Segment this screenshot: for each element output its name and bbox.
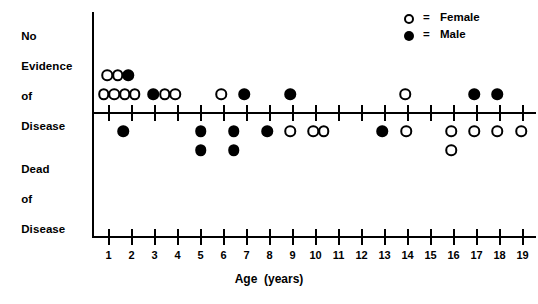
x-axis-tick: [407, 105, 409, 121]
data-point-female: [284, 125, 296, 137]
x-axis-tick-label: 16: [447, 249, 459, 261]
data-point-female: [445, 125, 457, 137]
x-axis-tick: [269, 105, 271, 121]
legend-label-female: Female: [440, 11, 480, 23]
x-axis-tick: [430, 229, 432, 245]
x-axis-tick: [407, 229, 409, 245]
filled-circle-icon: [404, 31, 414, 41]
category-label-dead: Dead of Disease: [8, 147, 65, 252]
data-point-female: [215, 88, 227, 100]
data-point-male: [118, 125, 130, 137]
x-axis-title: Age (years): [235, 272, 304, 286]
x-axis-tick-label: 7: [243, 249, 249, 261]
data-point-male: [228, 144, 240, 156]
x-axis-tick: [453, 105, 455, 121]
category-label-line: Disease: [21, 120, 65, 132]
category-label-line: of: [21, 193, 32, 205]
x-axis-tick: [384, 229, 386, 245]
x-axis-tick-label: 8: [266, 249, 272, 261]
data-point-female: [169, 88, 181, 100]
x-axis-tick: [476, 105, 478, 121]
x-axis-tick: [430, 105, 432, 121]
x-axis-tick-label: 12: [355, 249, 367, 261]
x-axis-tick: [315, 105, 317, 121]
y-axis-line: [92, 12, 94, 237]
x-axis-tick-label: 11: [333, 249, 345, 261]
category-label-line: Disease: [21, 223, 65, 235]
data-point-female: [491, 125, 503, 137]
x-axis-tick: [361, 105, 363, 121]
data-point-female: [399, 88, 411, 100]
x-axis-tick: [131, 229, 133, 245]
data-point-male: [148, 88, 160, 100]
x-axis-tick-label: 9: [289, 249, 295, 261]
x-axis-tick: [223, 229, 225, 245]
x-axis-tick: [246, 105, 248, 121]
x-axis-tick-label: 19: [516, 249, 528, 261]
x-axis-tick: [177, 229, 179, 245]
x-axis-tick: [522, 229, 524, 245]
open-circle-icon: [404, 14, 414, 24]
x-axis-tick: [292, 229, 294, 245]
data-point-female: [468, 125, 480, 137]
data-point-male: [284, 88, 296, 100]
x-axis-tick: [384, 105, 386, 121]
x-axis-tick-label: 6: [220, 249, 226, 261]
data-point-female: [445, 144, 457, 156]
x-axis-tick: [453, 229, 455, 245]
x-axis-tick-label: 3: [151, 249, 157, 261]
x-axis-tick-label: 10: [309, 249, 321, 261]
data-point-female: [129, 88, 141, 100]
data-point-male: [122, 69, 134, 81]
x-axis-tick-label: 1: [105, 249, 111, 261]
x-axis-tick: [338, 105, 340, 121]
x-axis-tick: [223, 105, 225, 121]
x-axis-tick: [499, 229, 501, 245]
x-axis-tick-label: 14: [401, 249, 413, 261]
x-axis-tick: [292, 105, 294, 121]
x-axis-tick: [476, 229, 478, 245]
x-axis-tick-label: 15: [424, 249, 436, 261]
x-axis-tick-label: 2: [128, 249, 134, 261]
category-label-line: of: [21, 90, 32, 102]
category-label-line: Evidence: [21, 60, 72, 72]
data-point-male: [468, 88, 480, 100]
x-axis-tick-label: 17: [470, 249, 482, 261]
data-point-female: [318, 125, 330, 137]
legend-label-male: Male: [440, 28, 466, 40]
data-point-male: [376, 125, 388, 137]
data-point-male: [238, 88, 250, 100]
legend-equals: =: [423, 28, 430, 40]
data-point-female: [401, 125, 413, 137]
x-axis-tick: [200, 105, 202, 121]
x-axis-tick-label: 18: [493, 249, 505, 261]
x-axis-tick: [108, 105, 110, 121]
x-axis-tick: [108, 229, 110, 245]
x-axis-tick: [154, 105, 156, 121]
category-label-line: Dead: [21, 163, 50, 175]
x-axis-tick-label: 4: [174, 249, 180, 261]
x-axis-tick: [338, 229, 340, 245]
legend-equals: =: [423, 11, 430, 23]
x-axis-tick: [361, 229, 363, 245]
x-axis-tick: [522, 105, 524, 121]
data-point-male: [261, 125, 273, 137]
data-point-female: [516, 125, 528, 137]
x-axis-tick: [315, 229, 317, 245]
x-axis-tick: [154, 229, 156, 245]
x-axis-tick: [177, 105, 179, 121]
x-axis-tick: [200, 229, 202, 245]
data-point-male: [195, 144, 207, 156]
category-label-line: No: [21, 30, 37, 42]
x-axis-tick: [131, 105, 133, 121]
chart-figure: No Evidence of Disease Dead of Disease 1…: [0, 0, 538, 304]
x-axis-tick-label: 5: [197, 249, 203, 261]
x-axis-tick: [499, 105, 501, 121]
data-point-male: [228, 125, 240, 137]
data-point-male: [195, 125, 207, 137]
data-point-male: [491, 88, 503, 100]
x-axis-tick-label: 13: [378, 249, 390, 261]
x-axis-tick: [269, 229, 271, 245]
category-label-no-evidence: No Evidence of Disease: [8, 14, 73, 149]
x-axis-tick: [246, 229, 248, 245]
